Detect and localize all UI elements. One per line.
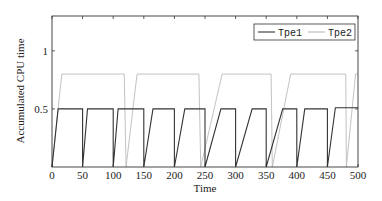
y-axis-label: Accumulated CPU time bbox=[14, 38, 26, 143]
x-tick-label: 200 bbox=[166, 169, 183, 181]
legend: Tpe1Tpe2 bbox=[254, 24, 355, 40]
cpu-time-chart: 0501001502002503003504004505000.51 Tpe1T… bbox=[0, 0, 382, 201]
y-tick-label: 1 bbox=[43, 45, 49, 57]
x-tick-label: 0 bbox=[49, 169, 55, 181]
x-tick-label: 450 bbox=[319, 169, 336, 181]
x-tick-label: 300 bbox=[227, 169, 244, 181]
series-line-tpe1 bbox=[52, 108, 358, 167]
x-tick-label: 100 bbox=[105, 169, 122, 181]
x-axis-label: Time bbox=[194, 182, 217, 194]
legend-label-tpe2: Tpe2 bbox=[328, 28, 352, 39]
series-layer bbox=[52, 74, 358, 167]
x-tick-label: 250 bbox=[197, 169, 214, 181]
x-tick-label: 350 bbox=[258, 169, 275, 181]
x-tick-label: 50 bbox=[77, 169, 89, 181]
x-tick-label: 500 bbox=[350, 169, 367, 181]
x-tick-label: 150 bbox=[136, 169, 153, 181]
legend-label-tpe1: Tpe1 bbox=[278, 28, 302, 39]
y-tick-label: 0.5 bbox=[34, 103, 48, 115]
x-tick-label: 400 bbox=[289, 169, 306, 181]
